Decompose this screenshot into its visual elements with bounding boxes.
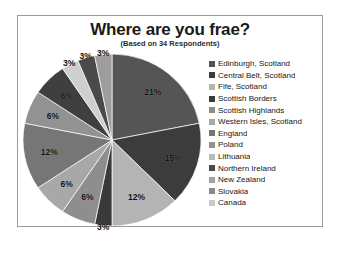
legend-item[interactable]: Western Isles, Scotland [209, 116, 321, 128]
slice-percentage-label: 6% [61, 179, 73, 189]
legend-item[interactable]: Lithuania [209, 151, 321, 163]
legend-item-label: Scottish Borders [218, 94, 277, 103]
slice-percentage-label: 6% [47, 111, 59, 121]
legend-item-label: Poland [218, 140, 243, 149]
legend-swatch-icon [209, 200, 215, 206]
pie-svg [20, 50, 206, 226]
legend-item-label: Western Isles, Scotland [218, 117, 302, 126]
legend-item[interactable]: Canada [209, 197, 321, 209]
legend-item[interactable]: Northern Ireland [209, 162, 321, 174]
legend-item-label: England [218, 129, 247, 138]
legend-item-label: Fife, Scotland [218, 82, 267, 91]
slice-percentage-label: 3% [79, 51, 91, 61]
legend-swatch-icon [209, 165, 215, 171]
slice-percentage-label: 21% [144, 87, 161, 97]
legend-item-label: Canada [218, 198, 246, 207]
legend-swatch-icon [209, 154, 215, 160]
legend-item[interactable]: Poland [209, 139, 321, 151]
slice-percentage-label: 12% [41, 147, 58, 157]
legend-item[interactable]: Edinburgh, Scotland [209, 58, 321, 70]
legend-swatch-icon [209, 177, 215, 183]
legend-swatch-icon [209, 96, 215, 102]
legend-item[interactable]: Central Belt, Scotland [209, 70, 321, 82]
legend-item[interactable]: Slovakia [209, 186, 321, 198]
legend-item-label: Scottish Highlands [218, 106, 284, 115]
legend-swatch-icon [209, 84, 215, 90]
legend-item-label: Central Belt, Scotland [218, 71, 295, 80]
slice-percentage-label: 12% [128, 192, 145, 202]
legend-item-label: Slovakia [218, 187, 248, 196]
legend-item[interactable]: Scottish Borders [209, 93, 321, 105]
legend-swatch-icon [209, 142, 215, 148]
chart-subtitle: (Based on 34 Respondents) [18, 39, 322, 48]
legend-item[interactable]: New Zealand [209, 174, 321, 186]
legend-item[interactable]: England [209, 128, 321, 140]
legend-item-label: Northern Ireland [218, 164, 276, 173]
chart-legend: Edinburgh, ScotlandCentral Belt, Scotlan… [209, 58, 321, 209]
pie-chart: 21%15%12%3%6%6%12%6%6%3%3%3% [20, 50, 206, 226]
legend-swatch-icon [209, 72, 215, 78]
slice-percentage-label: 6% [81, 192, 93, 202]
slice-percentage-label: 15% [165, 153, 182, 163]
legend-swatch-icon [209, 130, 215, 136]
slice-percentage-label: 3% [97, 48, 109, 58]
legend-item[interactable]: Scottish Highlands [209, 104, 321, 116]
legend-item[interactable]: Fife, Scotland [209, 81, 321, 93]
legend-swatch-icon [209, 61, 215, 67]
slice-percentage-label: 3% [97, 222, 109, 232]
plot-area: 21%15%12%3%6%6%12%6%6%3%3%3% [20, 50, 206, 226]
slice-percentage-label: 6% [61, 91, 73, 101]
slice-percentage-label: 3% [63, 58, 75, 68]
legend-swatch-icon [209, 107, 215, 113]
legend-swatch-icon [209, 119, 215, 125]
chart-title: Where are you frae? [18, 20, 322, 39]
chart-container: Where are you frae? (Based on 34 Respond… [17, 15, 323, 227]
legend-item-label: New Zealand [218, 175, 265, 184]
legend-item-label: Edinburgh, Scotland [218, 59, 290, 68]
legend-item-label: Lithuania [218, 152, 250, 161]
legend-swatch-icon [209, 188, 215, 194]
